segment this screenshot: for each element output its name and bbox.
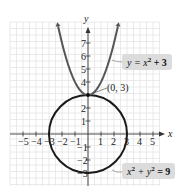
x-tick-label: −2	[57, 136, 68, 147]
x-tick-label: 4	[137, 136, 142, 147]
y-tick-label: −2	[77, 155, 88, 166]
x-tick-label: 2	[111, 136, 116, 147]
circle-equation-label: x2 + y2 = 9	[122, 163, 175, 179]
x-tick-label: 1	[98, 136, 103, 147]
parabola-arrow-right-icon	[115, 22, 120, 26]
parabola-arrow-left-icon	[56, 22, 61, 26]
circle-eq-y: + y	[135, 166, 151, 177]
x-tick-label: −4	[31, 136, 42, 147]
parabola-equation-label: y = x2 + 3	[122, 54, 172, 70]
circle-eq-rhs: = 9	[155, 166, 171, 177]
parabola-eq-rhs: + 3	[151, 57, 167, 68]
parabola-eq-lhs: y = x	[127, 57, 148, 68]
intersection-point	[86, 93, 90, 97]
y-tick-label: 4	[81, 77, 86, 88]
y-tick-label: −1	[77, 142, 88, 153]
x-axis-label: x	[167, 128, 173, 139]
y-tick-label: 5	[81, 64, 86, 75]
y-tick-label: 1	[81, 116, 86, 127]
x-tick-label: 5	[150, 136, 155, 147]
y-tick-label: 7	[81, 38, 86, 49]
y-axis-label: y	[83, 13, 89, 24]
y-tick-label: 6	[81, 51, 86, 62]
point-label: (0, 3)	[107, 82, 129, 94]
x-tick-label: −5	[18, 136, 29, 147]
y-tick-label: 2	[81, 103, 86, 114]
